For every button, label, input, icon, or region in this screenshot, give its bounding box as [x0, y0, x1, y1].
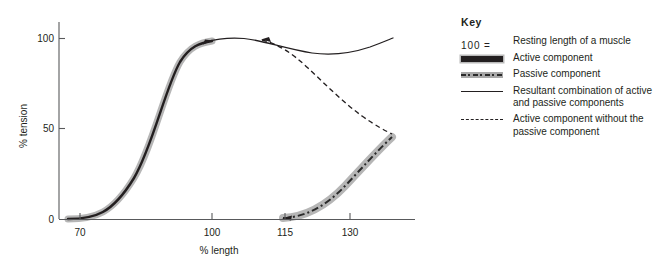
active-component-halo — [68, 41, 212, 219]
y-tick-label-0: 0 — [48, 214, 54, 225]
active-without-passive-swatch-line — [461, 119, 503, 120]
key-label-resultant: Resultant combination of active and pass… — [513, 85, 666, 110]
key-row-resting-length: 100 = Resting length of a muscle — [461, 35, 666, 48]
key-row-resultant: Resultant combination of active and pass… — [461, 85, 666, 110]
y-tick-label-50: 50 — [43, 123, 55, 134]
key-label-resting-length: Resting length of a muscle — [513, 35, 666, 48]
key-row-passive-component: Passive component — [461, 68, 666, 81]
x-axis-title: % length — [200, 245, 239, 256]
chart-svg: 100 50 0 70 100 115 130 % length % tensi… — [0, 0, 430, 262]
muscle-length-tension-figure: 100 50 0 70 100 115 130 % length % tensi… — [0, 0, 668, 262]
key-label-active-component: Active component — [513, 52, 666, 65]
resultant-swatch-line — [461, 91, 503, 92]
key-row-active-without-passive: Active component without the passive com… — [461, 113, 666, 138]
passive-component-swatch-line — [461, 72, 503, 78]
y-axis-title: % tension — [18, 104, 29, 148]
x-tick-label-70: 70 — [74, 227, 86, 238]
key-title: Key — [461, 16, 666, 28]
key-row-active-component: Active component — [461, 52, 666, 65]
active-component-swatch-line — [461, 56, 503, 62]
active-component-swatch — [461, 52, 513, 65]
key-label-passive-component: Passive component — [513, 68, 666, 81]
passive-component-halo — [283, 137, 392, 218]
x-tick-label-115: 115 — [277, 227, 293, 238]
resting-length-value-swatch: 100 = — [461, 35, 513, 48]
key-label-active-without-passive: Active component without the passive com… — [513, 113, 666, 138]
active-component-line — [68, 41, 212, 219]
resultant-component-line — [205, 38, 393, 54]
resultant-line-swatch — [461, 85, 513, 98]
active-without-passive-swatch — [461, 113, 513, 126]
y-tick-label-100: 100 — [37, 33, 54, 44]
x-tick-label-100: 100 — [204, 227, 221, 238]
x-tick-label-130: 130 — [342, 227, 359, 238]
chart-plot-area: 100 50 0 70 100 115 130 % length % tensi… — [0, 0, 430, 262]
passive-component-swatch — [461, 68, 513, 81]
resting-length-value: 100 = — [461, 40, 491, 51]
key-legend: Key 100 = Resting length of a muscle Act… — [461, 16, 666, 142]
